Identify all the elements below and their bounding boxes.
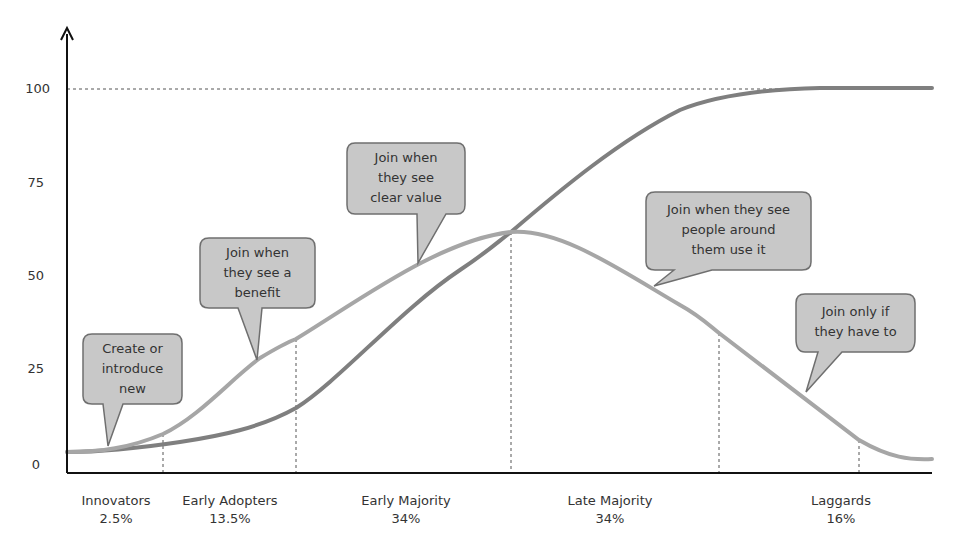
callout-early-majority: Join when they see clear value bbox=[347, 148, 465, 208]
y-tick-75: 75 bbox=[0, 175, 44, 190]
callout-line: they have to bbox=[796, 322, 915, 342]
y-tick-50: 50 bbox=[0, 268, 44, 283]
callout-line: Create or bbox=[83, 339, 182, 359]
segment-name: Laggards bbox=[761, 492, 921, 510]
callout-line: they see a bbox=[200, 263, 315, 283]
segment-share: 13.5% bbox=[150, 510, 310, 528]
segment-name: Early Majority bbox=[326, 492, 486, 510]
callout-innovators: Create or introduce new bbox=[83, 339, 182, 399]
segment-share: 34% bbox=[530, 510, 690, 528]
callout-line: Join when bbox=[200, 243, 315, 263]
callout-line: clear value bbox=[347, 188, 465, 208]
callout-line: introduce bbox=[83, 359, 182, 379]
segment-name: Late Majority bbox=[530, 492, 690, 510]
callout-line: benefit bbox=[200, 283, 315, 303]
callout-line: Join when they see bbox=[646, 200, 811, 220]
callout-laggards: Join only if they have to bbox=[796, 302, 915, 342]
callout-late-majority: Join when they see people around them us… bbox=[646, 200, 811, 260]
segment-share: 34% bbox=[326, 510, 486, 528]
callout-line: new bbox=[83, 379, 182, 399]
callout-early-adopters: Join when they see a benefit bbox=[200, 243, 315, 303]
segment-name: Early Adopters bbox=[150, 492, 310, 510]
callout-line: people around bbox=[646, 220, 811, 240]
callout-line: they see bbox=[347, 168, 465, 188]
y-tick-25: 25 bbox=[0, 361, 44, 376]
segment-label-early-adopters: Early Adopters 13.5% bbox=[150, 492, 310, 528]
segment-label-early-majority: Early Majority 34% bbox=[326, 492, 486, 528]
callout-line: Join when bbox=[347, 148, 465, 168]
callout-line: Join only if bbox=[796, 302, 915, 322]
adoption-chart bbox=[0, 0, 965, 560]
callout-line: them use it bbox=[646, 240, 811, 260]
y-tick-100: 100 bbox=[0, 81, 50, 96]
segment-label-laggards: Laggards 16% bbox=[761, 492, 921, 528]
segment-label-late-majority: Late Majority 34% bbox=[530, 492, 690, 528]
segment-share: 16% bbox=[761, 510, 921, 528]
y-tick-0: 0 bbox=[0, 457, 40, 472]
